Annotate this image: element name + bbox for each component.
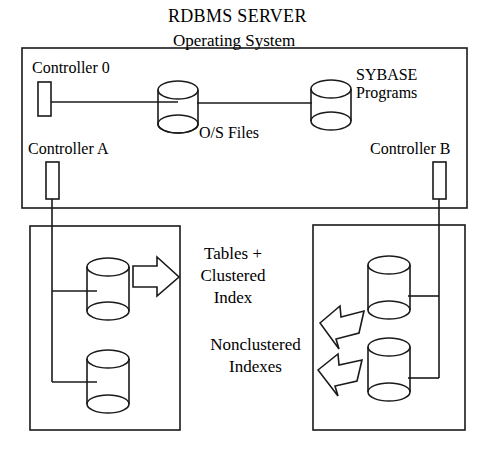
left-block-arrow-lower-shape bbox=[318, 354, 362, 396]
os-files-cylinder-shape bbox=[158, 81, 198, 133]
os-files-label: O/S Files bbox=[199, 124, 259, 142]
controller-0-label: Controller 0 bbox=[32, 59, 110, 77]
controller-a-label: Controller A bbox=[28, 140, 108, 158]
rdbms-server-diagram: RDBMS SERVER Operating System Controller… bbox=[0, 0, 490, 452]
controller-b-rect bbox=[433, 162, 446, 199]
left-block-arrow-upper-shape bbox=[320, 306, 364, 349]
operating-system-label: Operating System bbox=[173, 31, 295, 50]
diagram-title: RDBMS SERVER bbox=[168, 6, 307, 26]
left-disk-1-shape bbox=[87, 258, 129, 320]
sybase-programs-cylinder-shape bbox=[311, 80, 351, 130]
controller-b-label: Controller B bbox=[370, 140, 450, 158]
right-disk-1-shape bbox=[368, 256, 410, 319]
controller-a-rect bbox=[46, 162, 59, 199]
tables-clustered-index-label: Tables + Clustered Index bbox=[178, 243, 288, 308]
right-block-arrow-shape bbox=[133, 257, 179, 296]
right-disk-2-shape bbox=[368, 338, 410, 401]
sybase-programs-label: SYBASE Programs bbox=[356, 66, 417, 102]
nonclustered-indexes-label: Nonclustered Indexes bbox=[193, 334, 318, 378]
controller-0-rect bbox=[38, 82, 51, 116]
